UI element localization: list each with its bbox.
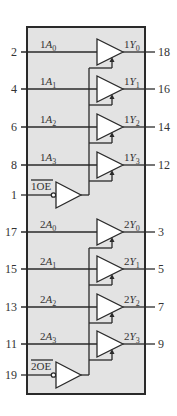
output-signal-label-sub: 1 — [136, 81, 140, 90]
output-pin-number: 5 — [158, 262, 164, 276]
output-signal-label-sub: 0 — [136, 224, 140, 233]
input-signal-label-sub: 3 — [52, 336, 56, 345]
enable-pin-number: 1 — [11, 188, 17, 202]
output-signal-label-sub: 3 — [136, 157, 140, 166]
input-pin-number: 13 — [5, 300, 17, 314]
enable-label-main: OE — [37, 180, 52, 192]
enable-signal-label: 2OE — [31, 360, 51, 372]
output-pin-number: 7 — [158, 300, 164, 314]
enable-pin-number: 19 — [5, 368, 17, 382]
input-pin-number: 2 — [11, 45, 17, 59]
output-pin-number: 12 — [158, 158, 170, 172]
input-signal-label-sub: 1 — [52, 261, 56, 270]
output-signal-label-sub: 1 — [136, 261, 140, 270]
inversion-bubble-icon — [51, 373, 55, 377]
input-pin-number: 17 — [5, 225, 17, 239]
tri-state-buffer-diagram: 2181A01Y04161A11Y16141A21Y28121A31Y311OE… — [0, 0, 177, 416]
output-signal-label-sub: 2 — [136, 299, 140, 308]
output-pin-number: 3 — [158, 225, 164, 239]
enable-signal-label: 1OE — [31, 180, 51, 192]
input-pin-number: 11 — [5, 337, 17, 351]
inversion-bubble-icon — [51, 193, 55, 197]
output-pin-number: 18 — [158, 45, 170, 59]
input-pin-number: 15 — [5, 262, 17, 276]
input-signal-label-sub: 0 — [52, 224, 56, 233]
enable-label-main: OE — [37, 360, 52, 372]
input-pin-number: 6 — [11, 120, 17, 134]
input-signal-label-sub: 0 — [52, 44, 56, 53]
input-signal-label-sub: 3 — [52, 157, 56, 166]
output-pin-number: 9 — [158, 337, 164, 351]
output-signal-label-sub: 2 — [136, 119, 140, 128]
input-pin-number: 8 — [11, 158, 17, 172]
output-signal-label-sub: 0 — [136, 44, 140, 53]
input-signal-label-sub: 2 — [52, 299, 56, 308]
output-signal-label-sub: 3 — [136, 336, 140, 345]
input-signal-label-sub: 1 — [52, 81, 56, 90]
output-pin-number: 16 — [158, 82, 170, 96]
input-pin-number: 4 — [11, 82, 17, 96]
input-signal-label-sub: 2 — [52, 119, 56, 128]
output-pin-number: 14 — [158, 120, 170, 134]
